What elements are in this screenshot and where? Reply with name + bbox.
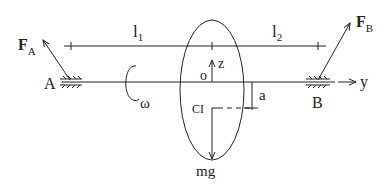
offset-label: a xyxy=(259,87,266,103)
center-of-mass-label: CI xyxy=(192,102,204,116)
force-b-arrow xyxy=(318,23,350,80)
y-axis-label: y xyxy=(360,73,368,91)
length-2-label: l2 xyxy=(272,22,282,43)
z-axis-label: z xyxy=(218,56,224,71)
force-b-label: FB xyxy=(356,13,373,34)
force-a-label: FA xyxy=(18,36,36,57)
bearing-b-label: B xyxy=(312,94,323,111)
rotation-arrow-icon xyxy=(126,66,139,101)
rotor-shaft-diagram: l1 l2 y A B FA FB ω o z CI a mg xyxy=(0,0,388,184)
origin-label: o xyxy=(200,68,207,83)
bearing-a-label: A xyxy=(44,75,56,92)
length-1-label: l1 xyxy=(133,22,143,43)
dimension-line xyxy=(64,42,326,50)
angular-velocity-label: ω xyxy=(140,95,150,111)
weight-label: mg xyxy=(196,163,216,179)
